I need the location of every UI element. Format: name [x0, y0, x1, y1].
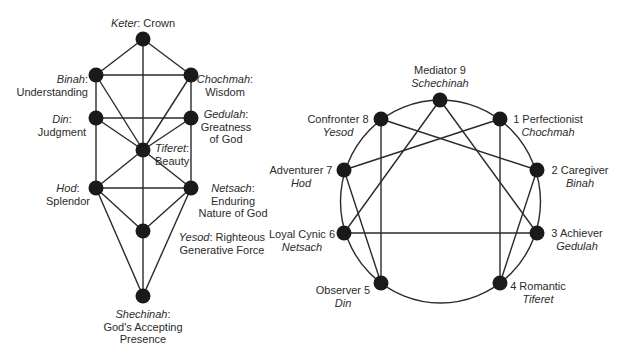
point-8: [374, 112, 389, 127]
node-keter: [136, 32, 151, 47]
point-6: [337, 226, 352, 241]
label-chochmah-name: Chochmah: [197, 73, 250, 85]
label-keter-meaning: Crown: [143, 17, 175, 29]
label-keter-name: Keter: [111, 17, 137, 29]
point-3: [530, 226, 545, 241]
label-point-1: 1 Perfectionist Chochmah: [513, 113, 583, 138]
label-netsach-name: Netsach: [211, 182, 251, 194]
node-hod: [89, 181, 104, 196]
label-hod: Hod: Splendor: [46, 182, 90, 207]
label-shechinah: Shechinah: God's Accepting Presence: [103, 308, 182, 346]
label-netsach: Netsach: Enduring Nature of God: [198, 182, 267, 220]
label-din-name: Din: [52, 113, 69, 125]
node-netsach: [184, 181, 199, 196]
label-din-meaning: Judgment: [38, 126, 86, 139]
point-9: [433, 93, 448, 108]
label-point-3: 3 Achiever Gedulah: [551, 227, 602, 252]
label-keter: Keter: Crown: [111, 17, 175, 30]
label-shechinah-name: Shechinah: [115, 308, 167, 320]
label-gedulah: Gedulah: Greatness of God: [201, 108, 252, 146]
node-yesod: [136, 224, 151, 239]
label-yesod: Yesod: Righteous Generative Force: [179, 231, 265, 256]
label-point-4: 4 Romantic Tiferet: [510, 280, 566, 305]
node-shechinah: [136, 289, 151, 304]
label-binah-meaning: Understanding: [16, 86, 88, 99]
node-binah: [89, 68, 104, 83]
label-point-8: Confronter 8 Yesod: [307, 113, 368, 138]
label-binah-name: Binah: [57, 73, 85, 85]
label-chochmah: Chochmah: Wisdom: [197, 73, 253, 98]
label-chochmah-meaning: Wisdom: [197, 86, 253, 99]
node-tiferet: [136, 143, 151, 158]
label-din: Din: Judgment: [38, 113, 86, 138]
label-point-7: Adventurer 7 Hod: [270, 164, 333, 189]
label-point-6: Loyal Cynic 6 Netsach: [269, 228, 335, 253]
point-7: [337, 163, 352, 178]
label-hod-meaning: Splendor: [46, 195, 90, 208]
tree-of-life-paths: [96, 39, 191, 296]
label-yesod-name: Yesod: [179, 231, 210, 243]
label-hod-name: Hod: [56, 182, 76, 194]
point-1: [493, 112, 508, 127]
point-5: [374, 276, 389, 291]
label-point-5: Observer 5 Din: [316, 284, 370, 309]
label-tiferet-name: Tiferet: [155, 142, 186, 154]
enneagram-circle: [341, 100, 541, 303]
label-tiferet-meaning: Beauty: [155, 155, 189, 168]
label-point-9: Mediator 9 Schechinah: [411, 64, 469, 89]
label-point-2: 2 Caregiver Binah: [552, 164, 609, 189]
label-binah: Binah: Understanding: [16, 73, 88, 98]
point-2: [530, 163, 545, 178]
label-gedulah-name: Gedulah: [204, 108, 246, 120]
label-tiferet: Tiferet: Beauty: [155, 142, 189, 167]
node-din: [89, 111, 104, 126]
point-4: [493, 276, 508, 291]
node-gedulah: [184, 111, 199, 126]
